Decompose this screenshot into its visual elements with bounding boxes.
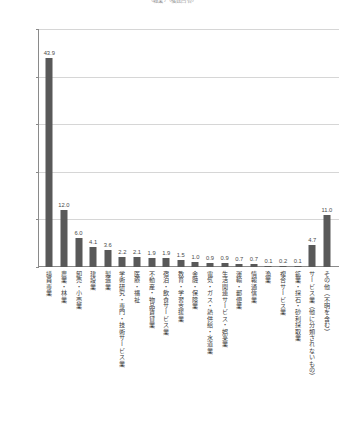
bar-slot: 1.9 [144, 29, 159, 267]
x-axis-category-label: 卸売・小売業 [74, 271, 83, 309]
x-axis-category-label-slot: 製造業 [100, 271, 115, 421]
bar-slot: 2.1 [130, 29, 145, 267]
x-axis-category-label-slot: 医療・福祉 [130, 271, 145, 421]
y-axis-tick-mark [36, 267, 39, 268]
bar-slot: 1.9 [159, 29, 174, 267]
chart-title: （職業）（複数回答） [0, 0, 345, 4]
bar [163, 258, 170, 267]
x-axis-category-label: 学術研究・専門・技術サービス業 [118, 271, 127, 367]
bar-value-label: 0.7 [235, 256, 243, 263]
bar-slot: 2.2 [115, 29, 130, 267]
bar [90, 247, 97, 267]
x-axis-category-label-slot: 学術研究・専門・技術サービス業 [115, 271, 130, 421]
bar [60, 210, 67, 267]
bar-slot: 0.9 [203, 29, 218, 267]
bar-value-label: 3.6 [104, 242, 112, 249]
bar-slot: 6.0 [71, 29, 86, 267]
bar [75, 238, 82, 267]
y-axis-tick-mark [36, 219, 39, 220]
bar-value-label: 1.9 [148, 250, 156, 257]
bar-chart: （職業）（複数回答） 0.0%10.0%20.0%30.0%40.0%50.0%… [0, 0, 345, 423]
bar-value-label: 0.1 [294, 258, 302, 265]
bar [323, 215, 330, 267]
x-axis-category-label: 金融・保険業 [191, 271, 200, 309]
bar-value-label: 2.1 [133, 249, 141, 256]
bar-slot: 0.7 [232, 29, 247, 267]
bar [221, 263, 228, 267]
x-axis-category-label-slot: 教育・学習支援業 [174, 271, 189, 421]
bar [177, 260, 184, 267]
x-axis-category-label: 漁業 [264, 271, 273, 284]
x-axis-category-label-slot: 不動産・物品賃貸業 [144, 271, 159, 421]
bar [250, 264, 257, 267]
x-axis-category-label: その他（不明を含む） [322, 271, 331, 335]
bar [280, 266, 287, 267]
bar-value-label: 0.9 [221, 255, 229, 262]
bar-slot: 4.7 [305, 29, 320, 267]
x-axis-category-label: 農業・林業 [59, 271, 68, 303]
x-axis-category-label-slot: 電気・ガス・熱供給・水道業 [203, 271, 218, 421]
bar-slot: 0.1 [290, 29, 305, 267]
bar [46, 58, 53, 267]
bar [294, 266, 301, 267]
x-axis-category-label: 建設業 [89, 271, 98, 290]
x-axis-category-label: 製造業 [103, 271, 112, 290]
y-axis-tick-mark [36, 124, 39, 125]
bar-value-label: 4.7 [308, 237, 316, 244]
bar [207, 263, 214, 267]
x-axis-category-label: 電気・ガス・熱供給・水道業 [206, 271, 215, 354]
x-axis-category-label: 鉱業・採石・砂利採取業 [293, 271, 302, 341]
bar-slot: 0.9 [217, 29, 232, 267]
x-axis-category-label: 不動産・物品賃貸業 [147, 271, 156, 329]
x-axis-category-label-slot: 建設業 [86, 271, 101, 421]
bar-value-label: 0.9 [206, 255, 214, 262]
bar-value-label: 2.2 [118, 249, 126, 256]
x-axis-category-label-slot: 議員専業 [42, 271, 57, 421]
bar-value-label: 4.1 [89, 239, 97, 246]
x-axis-category-label-slot: 卸売・小売業 [71, 271, 86, 421]
bar [192, 262, 199, 267]
bar-value-label: 11.0 [321, 207, 332, 214]
x-axis-category-label-slot: 鉱業・採石・砂利採取業 [290, 271, 305, 421]
x-axis-category-label-slot: 金融・保険業 [188, 271, 203, 421]
x-axis-category-label-slot: その他（不明を含む） [320, 271, 335, 421]
plot-area: 0.0%10.0%20.0%30.0%40.0%50.0% 43.912.06.… [38, 29, 339, 267]
x-axis-category-label: 医療・福祉 [132, 271, 141, 303]
bar-value-label: 1.5 [177, 252, 185, 259]
x-axis-category-label-slot: 複合サービス業 [276, 271, 291, 421]
y-axis-tick-mark [36, 172, 39, 173]
x-axis-category-label: 議員専業 [45, 271, 54, 297]
bar-slot: 0.2 [276, 29, 291, 267]
bar-value-label: 43.9 [44, 50, 55, 57]
bar-slot: 0.7 [247, 29, 262, 267]
bar [119, 257, 126, 267]
x-axis-category-label-slot: 漁業 [261, 271, 276, 421]
bar-slot: 12.0 [57, 29, 72, 267]
x-axis-category-label: サービス業（他に分類されないもの） [308, 271, 317, 380]
x-axis-category-label: 生活関連サービス・娯楽業 [220, 271, 229, 348]
bar-value-label: 0.7 [250, 256, 258, 263]
bar-value-label: 6.0 [74, 230, 82, 237]
x-axis-category-label: 運輸・郵便業 [235, 271, 244, 309]
bar-slot: 11.0 [320, 29, 335, 267]
x-axis-category-label-slot: 宿泊・飲食サービス業 [159, 271, 174, 421]
x-axis-category-label-slot: 運輸・郵便業 [232, 271, 247, 421]
bar-value-label: 1.0 [191, 254, 199, 261]
bar [104, 250, 111, 267]
x-axis-category-label-slot: 情報通信業 [247, 271, 262, 421]
bar-value-label: 12.0 [58, 202, 69, 209]
x-axis-category-label-slot: 生活関連サービス・娯楽業 [217, 271, 232, 421]
bar [133, 257, 140, 267]
bar-value-label: 0.1 [264, 258, 272, 265]
x-axis-category-label: 複合サービス業 [279, 271, 288, 316]
bar [309, 245, 316, 267]
x-axis-category-label: 教育・学習支援業 [176, 271, 185, 322]
bar [148, 258, 155, 267]
y-axis-tick-mark [36, 29, 39, 30]
bar-value-label: 1.9 [162, 250, 170, 257]
x-axis-category-label-slot: サービス業（他に分類されないもの） [305, 271, 320, 421]
bar [265, 266, 272, 267]
bar-slot: 1.5 [174, 29, 189, 267]
x-axis-category-label: 宿泊・飲食サービス業 [162, 271, 171, 335]
x-axis-category-label: 情報通信業 [249, 271, 258, 303]
